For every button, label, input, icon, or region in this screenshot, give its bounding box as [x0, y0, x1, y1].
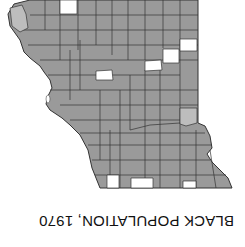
- county-light-2: [180, 108, 197, 126]
- county-white-6: [107, 175, 119, 188]
- county-white-2: [180, 39, 197, 51]
- county-white-4: [145, 60, 162, 71]
- county-white-1: [60, 0, 77, 14]
- lake: [46, 95, 50, 103]
- county-white-7: [131, 178, 153, 188]
- county-white-5: [96, 70, 113, 80]
- map-title: BLACK POPULATION, 1970: [48, 212, 234, 230]
- county-white-8: [183, 181, 196, 188]
- county-map: [0, 0, 245, 200]
- county-white-3: [163, 49, 179, 63]
